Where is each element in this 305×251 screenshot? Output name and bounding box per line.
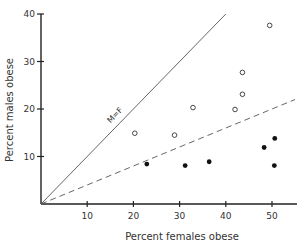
y-tick-label: 10 [24,152,36,162]
y-tick-label: 20 [24,104,36,114]
y-axis-label: Percent males obese [4,58,15,162]
dashed-trend-line [41,100,295,205]
filled-circle-point [262,145,267,150]
filled-circle-point [144,162,149,167]
filled-circle-point [272,136,277,141]
filled-circle-point [272,163,277,168]
open-circle-point [267,23,272,28]
filled-circle-point [207,159,212,164]
x-axis-label: Percent females obese [125,231,239,242]
open-circle-point [172,133,177,138]
x-tick-label: 40 [220,211,232,221]
y-tick-label: 40 [24,9,36,19]
filled-circle-point [183,163,188,168]
open-circle-point [191,105,196,110]
axes: 102030405010203040 [24,9,297,221]
data-points [132,23,277,168]
scatter-chart: 102030405010203040 M=F Percent females o… [0,0,305,251]
x-tick-label: 30 [174,211,186,221]
open-circle-point [233,107,238,112]
x-tick-label: 50 [266,211,278,221]
equality-line [41,14,226,204]
open-circle-point [132,131,137,136]
y-tick-label: 30 [24,57,36,67]
x-tick-label: 10 [81,211,93,221]
open-circle-point [240,92,245,97]
equality-line-label: M=F [105,105,124,125]
x-tick-label: 20 [128,211,140,221]
open-circle-point [240,70,245,75]
reference-lines: M=F [41,14,295,204]
